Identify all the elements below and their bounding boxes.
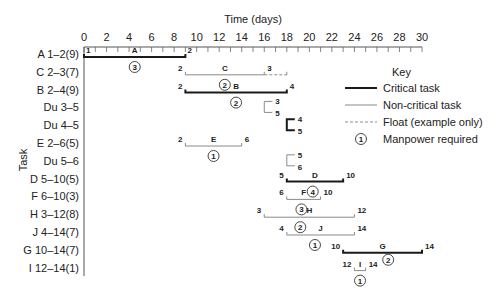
svg-text:2: 2 <box>178 135 183 144</box>
task-label: Du 4–5 <box>44 119 79 131</box>
task-name: G <box>379 242 385 251</box>
legend-label: Non-critical task <box>383 99 462 111</box>
x-tick-label: 10 <box>191 31 203 43</box>
svg-text:2: 2 <box>298 223 303 232</box>
svg-text:14: 14 <box>425 242 434 251</box>
x-tick-label: 14 <box>236 31 248 43</box>
svg-text:5: 5 <box>298 151 303 160</box>
task-label: A 1–2(9) <box>37 48 79 60</box>
legend-entry: Float (example only) <box>345 116 483 128</box>
svg-text:3: 3 <box>257 206 262 215</box>
svg-text:5: 5 <box>275 109 280 118</box>
task-name: I <box>359 260 361 269</box>
task-label: E 2–6(5) <box>37 137 79 149</box>
svg-text:1: 1 <box>359 135 364 144</box>
svg-text:12: 12 <box>342 260 351 269</box>
svg-text:2: 2 <box>178 82 183 91</box>
svg-text:3: 3 <box>299 205 304 214</box>
legend-label: Critical task <box>383 82 440 94</box>
svg-text:1: 1 <box>211 152 216 161</box>
svg-text:14: 14 <box>369 260 378 269</box>
task-name: B <box>233 82 239 91</box>
task-row: H 3–12(8)312H2 <box>30 206 367 233</box>
svg-text:2: 2 <box>223 81 228 90</box>
x-tick-label: 4 <box>126 31 132 43</box>
legend-label: Float (example only) <box>383 116 483 128</box>
x-tick-label: 2 <box>103 31 109 43</box>
task-row: Du 5–656 <box>44 151 303 172</box>
task-label: Du 5–6 <box>44 155 79 167</box>
x-tick-label: 18 <box>281 31 293 43</box>
svg-text:10: 10 <box>324 188 333 197</box>
svg-text:1: 1 <box>358 277 363 286</box>
gantt-chart: Time (days) Task 02468101214161820222426… <box>0 0 500 295</box>
svg-text:5: 5 <box>279 171 284 180</box>
svg-text:4: 4 <box>310 188 315 197</box>
svg-text:14: 14 <box>357 224 366 233</box>
task-label: F 6–10(3) <box>31 190 79 202</box>
task-label: B 2–4(9) <box>37 84 79 96</box>
x-tick-label: 6 <box>149 31 155 43</box>
task-name: J <box>318 224 322 233</box>
svg-text:12: 12 <box>357 206 366 215</box>
x-axis-title: Time (days) <box>224 13 282 25</box>
svg-text:3: 3 <box>267 64 272 73</box>
task-label: G 10–14(7) <box>23 244 79 256</box>
svg-text:2: 2 <box>234 99 239 108</box>
svg-text:1: 1 <box>86 46 91 55</box>
task-name: A <box>132 46 138 55</box>
x-tick-label: 20 <box>303 31 315 43</box>
svg-text:6: 6 <box>279 188 284 197</box>
task-name: E <box>211 135 217 144</box>
svg-text:4: 4 <box>298 115 303 124</box>
svg-text:6: 6 <box>298 163 303 172</box>
svg-text:2: 2 <box>178 64 183 73</box>
legend: KeyCritical taskNon-critical taskFloat (… <box>345 66 483 145</box>
task-label: H 3–12(8) <box>30 208 79 220</box>
legend-title: Key <box>392 66 411 78</box>
legend-entry: 1Manpower required <box>356 133 478 145</box>
svg-text:10: 10 <box>331 242 340 251</box>
x-tick-label: 22 <box>326 31 338 43</box>
task-label: I 12–14(1) <box>29 262 79 274</box>
x-tick-label: 12 <box>213 31 225 43</box>
svg-text:2: 2 <box>386 256 391 265</box>
task-label: D 5–10(5) <box>30 173 79 185</box>
svg-text:10: 10 <box>346 171 355 180</box>
task-label: J 4–14(7) <box>33 226 79 238</box>
task-row: Du 3–535 <box>44 97 281 118</box>
svg-text:4: 4 <box>290 82 295 91</box>
svg-text:3: 3 <box>132 63 137 72</box>
task-name: D <box>312 171 318 180</box>
x-tick-label: 16 <box>258 31 270 43</box>
x-tick-label: 0 <box>81 31 87 43</box>
task-label: Du 3–5 <box>44 101 79 113</box>
svg-text:2: 2 <box>187 46 192 55</box>
legend-label: Manpower required <box>383 133 478 145</box>
task-label: C 2–3(7) <box>36 66 79 78</box>
x-tick-label: 28 <box>393 31 405 43</box>
x-tick-label: 8 <box>171 31 177 43</box>
task-name: C <box>222 64 228 73</box>
task-bars: A 1–2(9)12A3C 2–3(7)23C2B 2–4(9)24B2Du 3… <box>23 46 434 286</box>
svg-text:3: 3 <box>275 97 280 106</box>
svg-text:1: 1 <box>313 241 318 250</box>
y-axis-title: Task <box>17 148 29 171</box>
task-row: I 12–14(1)1214I1 <box>29 260 378 287</box>
task-name: H <box>306 206 312 215</box>
legend-entry: Critical task <box>345 82 440 94</box>
svg-text:5: 5 <box>298 127 303 136</box>
x-tick-label: 30 <box>416 31 428 43</box>
task-row: J 4–14(7)414J1 <box>33 224 367 251</box>
legend-entry: Non-critical task <box>345 99 462 111</box>
task-name: F <box>301 188 306 197</box>
svg-text:6: 6 <box>245 135 250 144</box>
x-tick-label: 26 <box>371 31 383 43</box>
x-tick-label: 24 <box>348 31 360 43</box>
svg-text:4: 4 <box>279 224 284 233</box>
task-row: Du 4–545 <box>44 115 303 136</box>
